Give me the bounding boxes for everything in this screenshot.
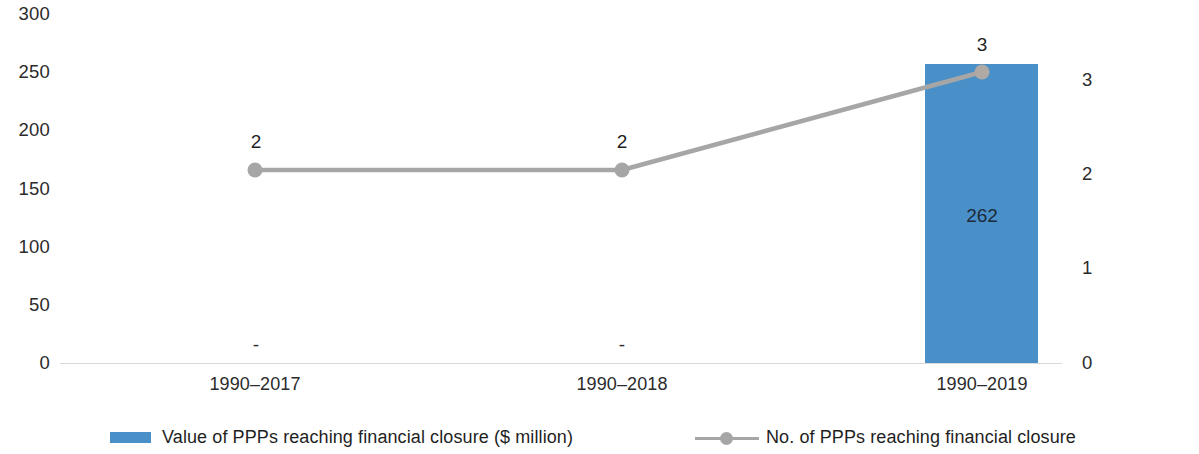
y-right-tick-1: 1 [1082, 257, 1112, 279]
y-left-tick-300: 300 [0, 3, 50, 25]
y-left-tick-200: 200 [0, 119, 50, 141]
y-axis-right: 3 2 1 0 [1082, 0, 1142, 454]
y-left-tick-100: 100 [0, 236, 50, 258]
cropped-title-remnant [0, 0, 1199, 7]
x-axis-label-1990-2019: 1990–2019 [882, 374, 1082, 395]
x-axis-baseline [60, 363, 1062, 364]
bar-value-label-1990-2018: - [602, 334, 642, 356]
line-value-label-1990-2019: 3 [922, 34, 1042, 56]
line-path [255, 72, 982, 170]
y-right-tick-3: 3 [1082, 69, 1112, 91]
chart-container: 300 250 200 150 100 50 0 3 2 1 0 262 - -… [0, 0, 1199, 454]
legend-line-swatch-icon [695, 431, 759, 445]
bar-value-label-1990-2019: 262 [922, 205, 1042, 227]
legend-entry-line-series[interactable]: No. of PPPs reaching financial closure [695, 421, 1076, 454]
legend-bar-swatch-icon [110, 432, 151, 443]
y-right-tick-2: 2 [1082, 163, 1112, 185]
legend-entry-bar-series[interactable]: Value of PPPs reaching financial closure… [110, 421, 573, 454]
y-left-tick-50: 50 [0, 294, 50, 316]
legend-bar-series-label: Value of PPPs reaching financial closure… [162, 427, 573, 448]
x-axis-category-labels: 1990–2017 1990–2018 1990–2019 [60, 374, 1060, 404]
line-value-label-1990-2017: 2 [196, 131, 316, 153]
y-right-tick-0: 0 [1082, 352, 1112, 374]
line-value-label-1990-2018: 2 [562, 131, 682, 153]
x-axis-label-1990-2017: 1990–2017 [155, 374, 355, 395]
line-marker-1990-2017 [248, 163, 263, 178]
chart-legend: Value of PPPs reaching financial closure… [0, 421, 1199, 454]
legend-line-series-label: No. of PPPs reaching financial closure [766, 427, 1076, 448]
y-left-tick-250: 250 [0, 61, 50, 83]
line-marker-1990-2018 [615, 163, 630, 178]
y-left-tick-150: 150 [0, 178, 50, 200]
bar-value-label-1990-2017: - [236, 334, 276, 356]
legend-line-marker-icon [720, 432, 733, 445]
x-axis-label-1990-2018: 1990–2018 [522, 374, 722, 395]
y-axis-left: 300 250 200 150 100 50 0 [0, 0, 50, 454]
y-left-tick-0: 0 [0, 352, 50, 374]
